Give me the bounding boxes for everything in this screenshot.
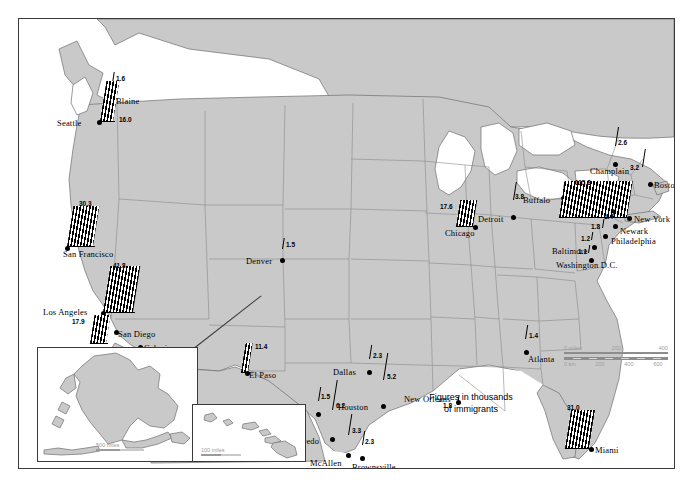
alaska-scale-label: 500 miles	[96, 442, 120, 448]
bar-value-label: 16.0	[119, 116, 132, 123]
scale-miles-line	[564, 352, 668, 355]
city-dot	[280, 258, 285, 263]
bar-value-label: 1.8	[591, 223, 600, 230]
map-frame: 1.6Blaine16.0Seattle30.3San Francisco41.…	[18, 18, 675, 469]
city-label: New York	[634, 214, 670, 224]
city-label: San Francisco	[63, 250, 114, 259]
bar-value-label: 11.4	[255, 343, 267, 350]
bar-value-label: 1.4	[529, 332, 538, 339]
city-label: Philadelphia	[611, 236, 656, 246]
city-dot	[592, 245, 597, 250]
city-label: Chicago	[445, 228, 475, 238]
bar-value-label: 1.4	[604, 213, 613, 220]
scale-miles-tick-2: 400	[659, 345, 668, 351]
alaska-inset: 500 miles	[37, 347, 198, 462]
bar-value-label: 1.5	[321, 393, 330, 400]
city-dot	[360, 456, 365, 461]
city-label: Detroit	[478, 214, 503, 224]
scale-km-label: 0 km	[564, 361, 576, 367]
city-dot	[316, 412, 321, 417]
city-label: McAllen	[310, 458, 342, 468]
hawaii-scale-label: 100 miles	[201, 447, 225, 453]
bar-value-label: 1.1	[578, 248, 587, 255]
city-label: Denver	[246, 256, 272, 266]
bar-value-label: 3.3	[352, 427, 361, 434]
city-dot	[97, 120, 102, 125]
city-label: Dallas	[333, 367, 356, 377]
scale-km-row: 0 km 200 400 600	[564, 357, 668, 368]
city-label: Brownsville	[352, 462, 396, 469]
scale-km-tick-2: 400	[624, 361, 633, 367]
scale-miles-tick-1: 200	[612, 345, 621, 351]
alaska-scale: 500 miles	[96, 442, 144, 451]
city-label: Atlanta	[528, 354, 554, 364]
city-dot	[511, 215, 516, 220]
bar-baseline	[90, 343, 108, 344]
city-label: Seattle	[57, 118, 82, 128]
city-dot	[613, 224, 618, 229]
map-caption: Figures in thousands of immigrants	[401, 391, 541, 415]
city-label: Blaine	[116, 96, 139, 106]
bar-baseline	[67, 246, 95, 247]
immigration-bar	[559, 181, 633, 217]
city-label: Washington D.C.	[556, 261, 618, 270]
scale-km-line	[564, 357, 668, 360]
scale-miles-ticks: 0 miles 200 400	[564, 345, 668, 351]
scale-bar: 0 miles 200 400 0 km 200 400 600	[564, 345, 668, 368]
hawaii-scale: 100 miles	[201, 447, 241, 456]
city-dot	[648, 182, 653, 187]
scale-km-tick-1: 200	[595, 361, 604, 367]
city-label: Houston	[338, 402, 368, 412]
city-label: Newark	[620, 226, 648, 236]
bar-baseline	[103, 312, 135, 313]
bar-baseline	[100, 121, 115, 122]
bar-value-label: 1.2	[581, 235, 590, 242]
city-dot	[589, 447, 594, 452]
city-label: El Paso	[249, 370, 276, 380]
bar-value-label: 17.6	[440, 203, 453, 210]
bar-value-label: 1.5	[286, 241, 295, 248]
bar-value-label: 30.3	[79, 200, 92, 207]
bar-value-label: 41.8	[113, 262, 126, 269]
city-label: Champlain	[590, 166, 629, 176]
bar-value-label: 115.8	[575, 179, 591, 186]
city-dot	[603, 234, 608, 239]
hawaii-inset: 100 miles	[192, 404, 306, 462]
bar-value-label: 2.6	[618, 139, 627, 146]
city-dot	[381, 404, 386, 409]
scale-km-ticks: 0 km 200 400 600	[564, 361, 668, 367]
scale-miles-row: 0 miles 200 400	[564, 345, 668, 356]
city-dot	[367, 370, 372, 375]
scale-miles-label: 0 miles	[564, 345, 581, 351]
bar-value-label: 31.0	[567, 404, 580, 411]
city-label: San Diego	[118, 329, 155, 339]
scale-km-tick-3: 600	[653, 361, 662, 367]
city-label: Buffalo	[523, 195, 550, 205]
city-label: Boston	[654, 180, 675, 190]
bar-value-label: 2.3	[373, 352, 382, 359]
city-dot	[330, 437, 335, 442]
bar-value-label: 2.3	[365, 438, 374, 445]
bar-value-label: 17.9	[72, 318, 85, 325]
hawaii-scale-bar	[201, 454, 241, 456]
bar-baseline	[565, 448, 591, 449]
city-label: Los Angeles	[43, 307, 87, 317]
bar-baseline	[559, 217, 629, 218]
city-dot	[346, 453, 351, 458]
alaska-scale-bar	[96, 449, 144, 451]
city-dot	[627, 216, 632, 221]
city-label: Miami	[595, 445, 619, 455]
bar-value-label: 3.2	[630, 164, 639, 171]
immigration-map: 1.6Blaine16.0Seattle30.3San Francisco41.…	[0, 0, 693, 487]
bar-value-label: 5.2	[387, 373, 396, 380]
